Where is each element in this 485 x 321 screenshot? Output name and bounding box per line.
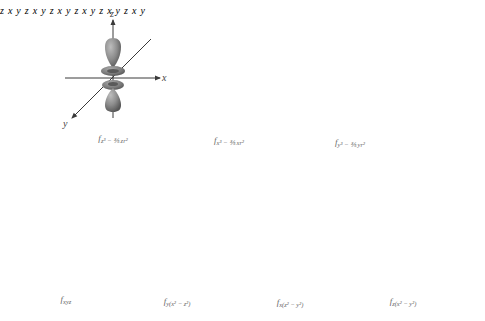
caption-fzx2y2: fz(x² − y²) [390,296,417,307]
z-label: z [109,8,114,19]
caption-sub: xyz [63,298,71,305]
caption-sub: x(z² − y²) [279,301,303,308]
x-label: x [161,72,167,83]
orbital-lobes [101,38,125,112]
caption-sub: z(x² − y²) [392,300,416,307]
caption-fxz2y2: fx(z² − y²) [277,297,304,308]
caption-fyx2z2: fy(x² − z²) [164,296,191,307]
caption-sub: y(x² − z²) [166,300,190,307]
caption-sub: z³ − ⅗ zr² [101,137,128,144]
panel-fz3: z x y [62,8,167,129]
caption-sub: x³ − ⅗ xr² [217,139,244,146]
y-label: y [62,118,68,129]
caption-fxyz: fxyz [61,294,72,305]
caption-sub: y³ − ⅗ yr² [338,141,365,148]
caption-fy3: fy³ − ⅗ yr² [335,137,365,149]
caption-fz3: fz³ − ⅗ zr² [98,133,127,145]
caption-fx3: fx³ − ⅗ xr² [214,135,244,147]
f-orbital-diagram: z x y [0,0,485,321]
